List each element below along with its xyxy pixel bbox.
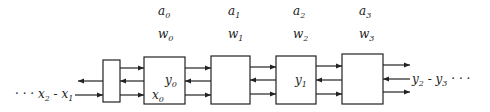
label-a3: a3 [359, 4, 371, 20]
label-w3: w3 [359, 27, 374, 43]
label-w2: w2 [293, 27, 308, 43]
label-a0: a0 [158, 4, 170, 20]
label-a1: a1 [228, 4, 240, 20]
processing-cell-1 [211, 56, 250, 104]
label-w0: w0 [158, 27, 173, 43]
weight-labels: a0 w0 a1 w1 a2 w2 a3 w3 [158, 4, 374, 43]
label-w1: w1 [228, 27, 243, 43]
output-stream-label: y2 - y3 · · · [411, 72, 470, 88]
processing-cell-3 [342, 54, 383, 104]
input-buffer-cell [103, 60, 120, 102]
systolic-array-diagram: a0 w0 a1 w1 a2 w2 a3 w3 y0 x0 y1 · · · x… [0, 0, 490, 112]
label-a2: a2 [293, 4, 305, 20]
input-stream-label: · · · x2 - x1 [15, 87, 73, 103]
